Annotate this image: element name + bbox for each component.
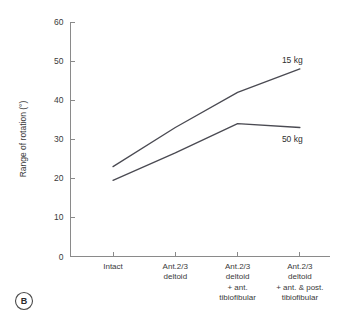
y-axis-title: Range of rotation (°) [18, 101, 28, 178]
y-tick-label: 40 [54, 95, 64, 105]
y-tick-marks [71, 22, 75, 257]
chart-canvas: 0102030405060 Range of rotation (°) Inta… [0, 0, 356, 322]
panel-marker-letter: B [21, 296, 28, 306]
x-axis-tick-labels: IntactAnt.2/3deltoidAnt.2/3deltoid+ ant.… [103, 262, 323, 303]
x-tick-label: Ant.2/3deltoid [163, 262, 189, 282]
y-tick-label: 50 [54, 56, 64, 66]
y-tick-label: 10 [54, 212, 64, 222]
y-tick-label: 0 [59, 252, 64, 262]
data-series-group [113, 69, 300, 180]
x-tick-label: Ant.2/3deltoid+ ant.tibiofibular [219, 262, 256, 303]
chart-figure: 0102030405060 Range of rotation (°) Inta… [0, 0, 356, 322]
x-tick-label: Intact [103, 262, 123, 271]
y-tick-label: 20 [54, 173, 64, 183]
x-tick-marks [113, 252, 300, 257]
y-axis-tick-labels: 0102030405060 [54, 17, 64, 262]
series-line-50kg [113, 124, 300, 181]
series-labels-group: 15 kg50 kg [282, 55, 303, 144]
y-tick-label: 30 [54, 134, 64, 144]
series-label-15kg: 15 kg [282, 55, 303, 65]
y-tick-label: 60 [54, 17, 64, 27]
series-label-50kg: 50 kg [282, 134, 303, 144]
panel-marker: B [16, 293, 33, 310]
x-tick-label: Ant.2/3deltoid+ ant. & post.tibiofibular [276, 262, 323, 303]
series-line-15kg [113, 69, 300, 167]
